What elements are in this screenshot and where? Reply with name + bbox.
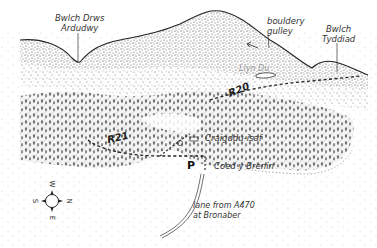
label-line: Ardudwy	[55, 23, 104, 33]
label-line: bouldery	[267, 16, 305, 26]
label-bwlch-drws-ardudwy: Bwlch Drws Ardudwy	[55, 13, 104, 33]
compass-letter-bottom: E	[48, 214, 56, 222]
label-line: lane from A470	[193, 201, 255, 211]
label-llyn-du: Llyn Du	[239, 64, 269, 73]
route-map: Bwlch Drws Ardudwy bouldery gulley Bwlch…	[0, 0, 377, 248]
parking-symbol: P	[187, 159, 195, 172]
label-craigddu-isaf: Craigddu-isaf	[205, 133, 262, 143]
label-line: Bwlch	[322, 24, 355, 34]
label-bwlch-tyddiad: Bwlch Tyddiad	[322, 24, 355, 44]
label-line: gulley	[267, 26, 305, 36]
label-lane-from-a470: lane from A470 at Bronaber	[193, 201, 255, 221]
label-line: at Bronaber	[193, 211, 255, 221]
compass-letter-top: W	[48, 180, 56, 188]
label-line: Tyddiad	[322, 34, 355, 44]
compass-letter-left: S	[31, 197, 39, 205]
terrain-illustration	[0, 0, 377, 248]
label-coed-y-brenin: Coed y Brenin	[214, 161, 274, 171]
compass-letter-right: N	[65, 197, 73, 205]
label-line: Bwlch Drws	[55, 13, 104, 23]
label-bouldery-gulley: bouldery gulley	[267, 16, 305, 36]
